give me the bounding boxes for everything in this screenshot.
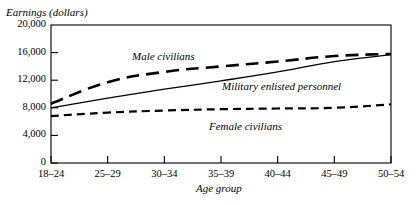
earnings-by-age-group-chart: Earnings (dollars) Age group 04,0008,000… <box>0 0 416 205</box>
series-line <box>51 54 391 104</box>
x-axis-ticks <box>51 156 391 163</box>
series-line <box>51 104 391 116</box>
series-lines <box>51 54 391 116</box>
plot-border <box>51 25 391 163</box>
plot-frame <box>51 25 391 163</box>
series-line <box>51 55 391 108</box>
chart-plot-area <box>0 0 416 205</box>
